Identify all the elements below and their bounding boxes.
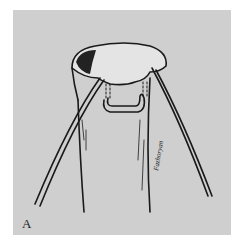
illustration-drawing	[0, 0, 241, 249]
panel-label: A	[22, 216, 31, 232]
